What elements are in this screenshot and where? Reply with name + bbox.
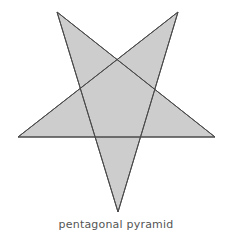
figure-panel: pentagonal pyramid: [0, 0, 232, 244]
figure-caption: pentagonal pyramid: [0, 218, 232, 232]
pentagram-figure: [0, 0, 232, 244]
